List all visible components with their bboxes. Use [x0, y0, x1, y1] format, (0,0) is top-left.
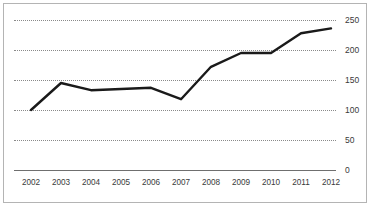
chart-plot-area: 250 200 150 100 50 0 2002 2003 2004 2005… — [0, 0, 372, 208]
data-line-series-1 — [31, 28, 331, 110]
chart-series-svg — [0, 0, 372, 208]
